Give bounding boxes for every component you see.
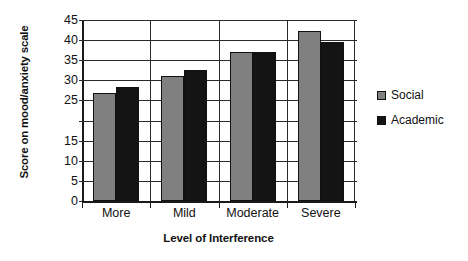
y-axis-tick [79,20,84,21]
x-axis-tick [355,201,356,208]
y-axis-title: Score on mood/anxiety scale [18,2,30,202]
x-axis-title: Level of Interference [82,232,355,244]
x-axis-category-label: Moderate [219,206,287,220]
bar-more-academic [116,87,139,201]
x-axis-category-label: More [82,206,150,220]
group-separator [219,20,220,201]
bar-moderate-academic [253,52,276,201]
y-axis-tick [79,40,84,41]
y-axis-tick-label: 15 [64,135,78,147]
bar-more-social [93,93,116,201]
y-axis-tick-label: 5 [71,175,78,187]
y-axis-tick [79,181,84,182]
bar-chart: Score on mood/anxiety scale 454035302515… [0,0,468,261]
x-axis-tick [287,201,288,208]
x-axis-tick [150,201,151,208]
y-axis-tick-label: 0 [71,195,78,207]
y-axis-tick [79,60,84,61]
legend-item-social: Social [377,88,444,102]
y-axis-tick-label: 10 [64,155,78,167]
bar-severe-academic [321,42,344,201]
legend-label-academic: Academic [391,113,444,127]
x-axis-category-label: Severe [287,206,355,220]
legend-label-social: Social [391,88,424,102]
plot-right-border [354,20,355,201]
group-separator [287,20,288,201]
y-axis-tick-label: 25 [64,94,78,106]
x-axis-tick [82,201,83,208]
x-axis-tick [219,201,220,208]
group-separator [150,20,151,201]
y-axis-tick [79,80,84,81]
y-axis-tick-label: 40 [64,34,78,46]
bar-moderate-social [230,52,253,201]
y-axis-tick [79,100,84,101]
bar-mild-academic [184,70,207,201]
y-axis-tick [79,161,84,162]
y-axis-tick [79,141,84,142]
x-axis-line [82,201,357,203]
legend: Social Academic [377,88,444,138]
x-axis-category-label: Mild [150,206,218,220]
gridline [84,20,357,21]
y-axis-tick-labels: 4540353025151050 [48,12,78,208]
y-axis-tick-label: 35 [64,54,78,66]
legend-swatch-academic-icon [377,116,386,125]
bar-severe-social [298,31,321,201]
legend-item-academic: Academic [377,113,444,127]
legend-swatch-social-icon [377,91,386,100]
y-axis-tick-label: 30 [64,74,78,86]
bar-mild-social [161,76,184,201]
y-axis-tick [79,121,84,122]
y-axis-tick-label: 45 [64,14,78,26]
